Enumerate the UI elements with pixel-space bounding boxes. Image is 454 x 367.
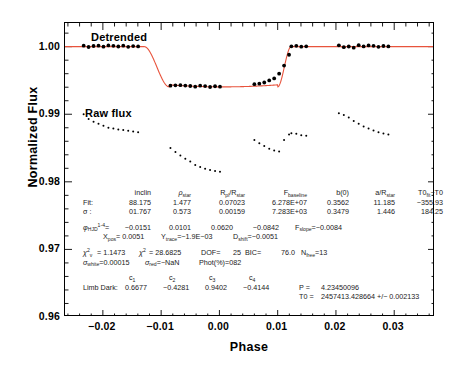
raw-flux-series xyxy=(83,112,390,172)
c2-header: c2 xyxy=(169,274,175,281)
position-row: Xpos= 0.0051 Ytrace=−1.9E−03 Dshift=−0.0… xyxy=(83,233,431,243)
chi-nu-sq: χ2ν xyxy=(83,249,92,256)
y-tick-0.97: 0.97 xyxy=(39,242,60,254)
x-tick--0.01: −0.01 xyxy=(146,320,174,332)
phi-value-2: 0.0101 xyxy=(153,224,191,231)
header-a-rstar: a/Rstar xyxy=(351,189,395,196)
sigma-a-rstar: 1.446 xyxy=(351,208,395,215)
bic-label: BIC= xyxy=(245,249,261,256)
y-tick-0.98: 0.98 xyxy=(39,175,60,187)
y-tick-0.99: 0.99 xyxy=(39,107,60,119)
limb-dark-c1: 0.6677 xyxy=(125,284,147,291)
phot-percent: Phot(%)=082 xyxy=(199,259,241,266)
d-shift: Dshift=−0.0051 xyxy=(233,233,278,240)
x-pos: Xpos= 0.0051 xyxy=(103,233,144,240)
x-axis-label: Phase xyxy=(64,340,434,354)
header-rho-star: ρstar xyxy=(153,189,191,196)
t0-value: 2457413.428664 +/− 0.002133 xyxy=(321,293,419,300)
plot-area: Detrended Raw flux inclin ρstar Rpl/Rsta… xyxy=(64,22,434,316)
header-inclin: inclin xyxy=(105,189,151,196)
sigma-red: σred=−NaN xyxy=(145,259,180,266)
header-f-baseline: Fbaseline xyxy=(247,189,307,196)
header-b0: b(0) xyxy=(309,189,349,196)
sigma-row-label: σ : xyxy=(83,208,91,215)
fit-b0: 0.3562 xyxy=(309,199,349,206)
y-tick-1.00: 1.00 xyxy=(39,40,60,52)
y-tick-0.96: 0.96 xyxy=(39,310,60,322)
phi-value-4: −0.0842 xyxy=(235,224,279,231)
x-tick-0.02: 0.02 xyxy=(324,320,345,332)
phi-value-3: 0.0620 xyxy=(193,224,233,231)
fit-parameters-block: inclin ρstar Rpl/Rstar Fbaseline b(0) a/… xyxy=(83,189,431,303)
limb-dark-c4: −0.4144 xyxy=(243,284,269,291)
n-free: Nfree=13 xyxy=(301,249,327,256)
t0-row: T0 = 2457413.428664 +/− 0.002133 xyxy=(83,293,431,303)
fit-t0fit: −355.93 xyxy=(397,199,443,206)
sigma-rp-rstar: 0.00159 xyxy=(193,208,245,215)
sigma-f-baseline: 7.283E+03 xyxy=(247,208,307,215)
sigma-inclin: 01.767 xyxy=(105,208,151,215)
stats-row-2: σwhite=0.00015 σred=−NaN Phot(%)=082 xyxy=(83,259,431,269)
x-tick-0.00: 0.00 xyxy=(208,320,229,332)
f-slope: Fslope=−0.0084 xyxy=(295,224,342,231)
detrended-label: Detrended xyxy=(91,31,147,43)
limb-dark-c2: −0.4281 xyxy=(163,284,189,291)
fit-table-row-sigma: σ : 01.767 0.573 0.00159 7.283E+03 0.347… xyxy=(83,208,431,218)
limb-dark-c3: 0.9402 xyxy=(205,284,227,291)
stats-row-1: χ2ν = 1.1473 χ2 = 28.6825 DOF= 25 BIC= 7… xyxy=(83,249,431,259)
sigma-t0fit: 184.25 xyxy=(397,208,443,215)
sigma-b0: 0.3479 xyxy=(309,208,349,215)
sigma-white: σwhite=0.00015 xyxy=(83,259,129,266)
chi-sq: χ2 xyxy=(139,249,146,256)
t0-label: T0 = xyxy=(299,293,314,300)
detrended-flux-series xyxy=(82,43,391,89)
chi-nu-value: = 1.1473 xyxy=(97,249,125,256)
raw-flux-label: Raw flux xyxy=(85,107,132,119)
c4-header: c4 xyxy=(249,274,255,281)
transit-lightcurve-figure: Normalized Flux 0.960.970.980.991.00 Det… xyxy=(0,0,454,367)
header-t0fit: T0fit−T0 xyxy=(397,189,443,196)
dof-value: 25 xyxy=(221,249,241,256)
fit-rp-rstar: 0.07023 xyxy=(193,199,245,206)
period-label: P = xyxy=(299,284,310,291)
bic-value: 76.0 xyxy=(265,249,295,256)
dof-label: DOF= xyxy=(201,249,220,256)
x-tick-0.01: 0.01 xyxy=(266,320,287,332)
c1-header: c1 xyxy=(129,274,135,281)
c3-header: c3 xyxy=(209,274,215,281)
phi-value-1: −0.0151 xyxy=(111,224,151,231)
fit-inclin: 88.175 xyxy=(105,199,151,206)
period-value: 4.23450096 xyxy=(321,284,359,291)
fit-a-rstar: 11.185 xyxy=(351,199,395,206)
header-rp-rstar: Rpl/Rstar xyxy=(193,189,245,196)
sigma-rho-star: 0.573 xyxy=(153,208,191,215)
x-tick-0.03: 0.03 xyxy=(383,320,404,332)
limb-dark-label: Limb Dark: xyxy=(83,284,118,291)
x-tick--0.02: −0.02 xyxy=(88,320,116,332)
fit-rho-star: 1.477 xyxy=(153,199,191,206)
y-trace: Ytrace=−1.9E−03 xyxy=(161,233,213,240)
phi-symbol: φHJD1-4= xyxy=(83,224,109,231)
chi-sq-value: = 28.6825 xyxy=(149,249,181,256)
fit-f-baseline: 6.278E+07 xyxy=(247,199,307,206)
y-axis-tick-labels: 0.960.970.980.991.00 xyxy=(0,22,60,316)
x-axis-tick-labels: −0.02−0.010.000.010.020.03 xyxy=(64,320,434,336)
fit-row-label: Fit: xyxy=(83,199,93,206)
